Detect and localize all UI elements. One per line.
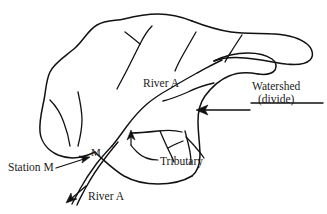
tributary-nw-1 bbox=[50, 100, 70, 146]
label-watershed-line2: (divide) bbox=[252, 93, 300, 106]
tributary-northeast-1 bbox=[175, 32, 196, 71]
label-watershed-line1: Watershed bbox=[252, 80, 300, 92]
basin-boundary-north-east-lobe bbox=[192, 21, 312, 65]
tributary-flow-arrow-group bbox=[127, 130, 135, 145]
tributary-network-group bbox=[50, 26, 242, 164]
label-tributary: Tributary bbox=[160, 155, 203, 168]
tributary-nw-2 bbox=[78, 92, 82, 146]
label-river-a-main: River A bbox=[143, 77, 179, 90]
label-watershed-divide: Watershed (divide) bbox=[252, 80, 300, 106]
label-station-m: Station M bbox=[8, 161, 54, 174]
tributary-leader-line bbox=[131, 145, 158, 160]
river-outlet-annotation-group bbox=[66, 186, 86, 203]
tributary-annotation-group bbox=[131, 145, 158, 160]
tributary-north-fork-branch bbox=[140, 26, 152, 44]
station-m-arrow-shaft bbox=[56, 159, 84, 168]
tributary-north-fork-main bbox=[117, 44, 140, 89]
label-station-m-point: M bbox=[91, 146, 101, 158]
tributary-central-south bbox=[131, 130, 182, 133]
basin-boundary-lobe-underside bbox=[214, 53, 276, 74]
river-a-upper-stem bbox=[112, 60, 222, 146]
tributary-central-south-branch2 bbox=[168, 141, 183, 148]
label-river-a-outlet: River A bbox=[88, 190, 124, 203]
tributary-north-fork-branch2 bbox=[125, 32, 140, 44]
watershed-diagram-figure: River A Watershed (divide) Tributary Sta… bbox=[0, 0, 327, 214]
diagram-canvas bbox=[0, 0, 327, 214]
